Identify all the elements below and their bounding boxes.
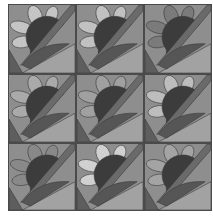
sunflower-icon: [9, 144, 75, 210]
sunflower-block-2: [76, 4, 144, 74]
sunflower-block-6: [144, 74, 212, 143]
sunflower-block-9: [144, 143, 212, 211]
sunflower-icon: [145, 75, 211, 142]
sunflower-block-8: [76, 143, 144, 211]
sunflower-block-5: [76, 74, 144, 143]
sunflower-icon: [9, 5, 75, 73]
sunflower-icon: [9, 75, 75, 142]
sunflower-icon: [77, 5, 143, 73]
quilt-grid: [8, 4, 212, 211]
sunflower-block-7: [8, 143, 76, 211]
sunflower-icon: [145, 144, 211, 210]
sunflower-block-1: [8, 4, 76, 74]
sunflower-block-4: [8, 74, 76, 143]
sunflower-icon: [145, 5, 211, 73]
sunflower-icon: [77, 144, 143, 210]
sunflower-block-3: [144, 4, 212, 74]
sunflower-icon: [77, 75, 143, 142]
